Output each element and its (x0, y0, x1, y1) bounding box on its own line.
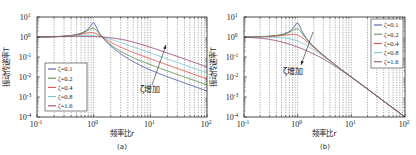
legend: ζ=0.1ζ=0.2ζ=0.4ζ=0.8ζ=1.6 (371, 19, 403, 68)
y-tick-label: 10-2 (226, 72, 239, 83)
legend-label: ζ=0.1 (58, 65, 72, 73)
y-axis-label: 振动传递率T (1, 47, 11, 87)
x-tick-label: 102 (201, 119, 212, 130)
x-tick-label: 101 (144, 119, 155, 130)
y-tick-label: 100 (20, 32, 31, 43)
x-axis-label: 频率比r (110, 128, 135, 138)
annotation-text: ζ增加 (140, 84, 160, 94)
panel-caption: (b) (320, 143, 330, 151)
y-tick-label: 10-1 (226, 52, 239, 63)
legend: ζ=0.1ζ=0.2ζ=0.4ζ=0.8ζ=1.6 (45, 63, 87, 111)
y-axis-label: 振动传递率T (208, 47, 218, 87)
legend-label: ζ=0.2 (58, 75, 72, 83)
chart-panel-a: 10-110010110210110010-110-210-310-4频率比r振… (1, 12, 212, 152)
chart-panel-b: 10-110010110210110010-110-210-310-4频率比r振… (208, 12, 410, 152)
arrow-head-icon (301, 61, 304, 65)
figure: 10-110010110210110010-110-210-310-4频率比r振… (0, 0, 416, 155)
legend-label: ζ=1.6 (58, 102, 73, 110)
arrow-head-icon (163, 45, 166, 49)
legend-label: ζ=0.4 (384, 40, 399, 48)
legend-label: ζ=0.1 (384, 21, 398, 29)
legend-label: ζ=0.8 (58, 93, 72, 101)
x-tick-label: 102 (399, 119, 410, 130)
annotation-text: ζ增加 (283, 66, 303, 76)
x-tick-label: 101 (345, 119, 356, 130)
y-tick-label: 10-3 (19, 92, 32, 103)
legend-label: ζ=0.4 (58, 84, 73, 92)
x-tick-label: 10-1 (30, 119, 43, 130)
panel-caption: (a) (117, 143, 127, 151)
legend-label: ζ=0.8 (384, 49, 398, 57)
x-tick-label: 10-1 (237, 119, 250, 130)
legend-label: ζ=1.6 (384, 58, 399, 66)
y-tick-label: 10-2 (19, 72, 32, 83)
y-tick-label: 101 (227, 12, 238, 23)
x-tick-label: 100 (291, 119, 302, 130)
annotation-line (152, 45, 166, 85)
legend-label: ζ=0.2 (384, 31, 398, 39)
x-tick-label: 100 (87, 119, 98, 130)
x-axis-label: 频率比r (312, 128, 337, 138)
y-tick-label: 10-3 (226, 92, 239, 103)
y-tick-label: 100 (227, 32, 238, 43)
y-tick-label: 10-1 (19, 52, 32, 63)
y-tick-label: 101 (20, 12, 31, 23)
